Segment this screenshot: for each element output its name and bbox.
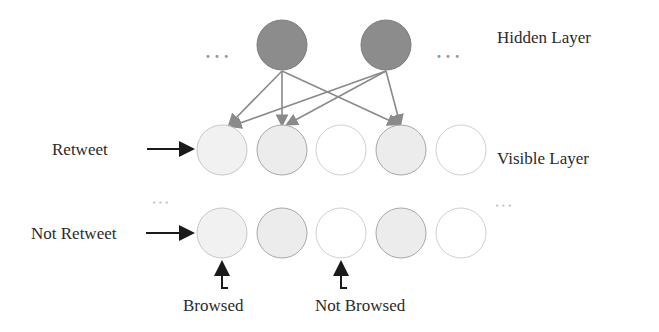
visible-unit <box>436 208 486 258</box>
hidden-unit <box>257 20 307 70</box>
connections <box>230 71 400 126</box>
pointer-arrows <box>146 149 347 288</box>
visible-layer-not-retweet-row <box>197 208 486 258</box>
hidden-unit <box>361 20 411 70</box>
visible-unit <box>436 125 486 175</box>
visible-layer-retweet-row <box>197 125 486 175</box>
visible-unit <box>197 125 247 175</box>
not-retweet-label: Not Retweet <box>31 224 117 243</box>
hidden-layer <box>257 20 411 70</box>
visible-unit <box>257 125 307 175</box>
retweet-label: Retweet <box>52 140 108 159</box>
visible-unit <box>316 125 366 175</box>
ellipsis-visible-left: • • • <box>152 199 169 207</box>
visible-unit <box>376 208 426 258</box>
not-browsed-label: Not Browsed <box>315 296 406 315</box>
browsed-arrow <box>222 262 228 288</box>
visible-unit <box>197 208 247 258</box>
visible-layer-label: Visible Layer <box>497 149 589 168</box>
ellipsis-visible-right: • • • <box>495 202 512 210</box>
visible-unit <box>316 208 366 258</box>
ellipsis-hidden-left: • • • <box>205 51 229 62</box>
visible-unit <box>257 208 307 258</box>
hidden-layer-label: Hidden Layer <box>497 28 591 47</box>
rbm-diagram: • • • • • • • • • • • • Hidden Layer Vis… <box>0 0 659 332</box>
browsed-label: Browsed <box>183 296 244 315</box>
not-browsed-arrow <box>341 262 347 288</box>
visible-unit <box>376 125 426 175</box>
ellipsis-hidden-right: • • • <box>436 51 460 62</box>
